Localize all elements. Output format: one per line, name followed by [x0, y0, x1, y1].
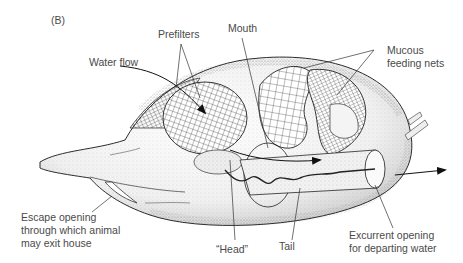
panel-label: (B)	[51, 14, 65, 27]
prefilter-oval	[163, 82, 247, 154]
animal-head	[194, 150, 242, 174]
label-excurrent-line1: Excurrent opening	[349, 229, 434, 242]
label-escape-line2: through which animal	[21, 224, 120, 237]
label-escape-line3: may exit house	[21, 237, 92, 250]
label-mucous-line1: Mucous	[387, 44, 424, 57]
label-mucous-line2: feeding nets	[387, 57, 444, 70]
larvacean-house-figure: (B) Prefilters Mouth Mucous feeding nets…	[0, 0, 463, 263]
label-mouth: Mouth	[228, 22, 257, 35]
label-prefilters: Prefilters	[158, 28, 199, 41]
label-excurrent-line2: for departing water	[349, 242, 437, 255]
label-head: “Head”	[216, 243, 248, 256]
label-water-flow: Water flow	[89, 56, 138, 69]
label-tail: Tail	[279, 240, 295, 253]
label-escape-line1: Escape opening	[21, 211, 96, 224]
